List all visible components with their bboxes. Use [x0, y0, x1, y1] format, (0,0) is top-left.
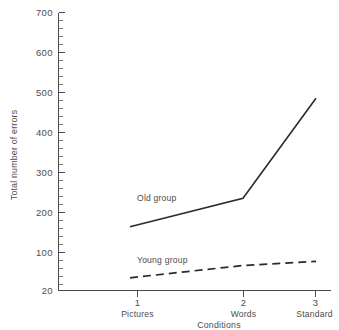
y-axis-title-group: Total number of errors [9, 109, 19, 200]
ytick-label: 100 [36, 247, 53, 258]
y-axis-major-ticks [59, 13, 65, 291]
x-axis-ticks [138, 291, 316, 297]
x-axis-category-labels: Pictures Words Standard [121, 309, 333, 319]
xtick-category: Standard [296, 309, 332, 319]
ytick-label: 600 [36, 47, 53, 58]
xtick-category: Words [231, 309, 257, 319]
series-group [130, 98, 316, 278]
ytick-label: 200 [36, 207, 53, 218]
xtick-number: 1 [135, 297, 141, 308]
ytick-label: 20 [42, 285, 53, 296]
xtick-number: 3 [313, 297, 319, 308]
xtick-number: 2 [241, 297, 247, 308]
series-line-old-group [130, 98, 316, 227]
axes-group [59, 13, 331, 291]
ytick-label: 500 [36, 87, 53, 98]
series-annotations: Old group Young group [137, 193, 188, 265]
ytick-label: 400 [36, 127, 53, 138]
series-label-young-group: Young group [137, 255, 188, 265]
xtick-category: Pictures [121, 309, 154, 319]
series-label-old-group: Old group [137, 193, 177, 203]
x-axis-title: Conditions [197, 320, 241, 330]
ytick-label: 700 [36, 7, 53, 18]
y-axis-title: Total number of errors [9, 109, 19, 200]
ytick-label: 300 [36, 167, 53, 178]
x-axis-tick-numbers: 1 2 3 [135, 297, 319, 308]
y-axis-minor-ticks [59, 21, 63, 285]
chart-figure: 700 600 500 400 300 200 100 20 Total num… [0, 0, 339, 330]
line-chart: 700 600 500 400 300 200 100 20 Total num… [0, 0, 339, 330]
y-axis-tick-labels: 700 600 500 400 300 200 100 20 [36, 7, 53, 296]
